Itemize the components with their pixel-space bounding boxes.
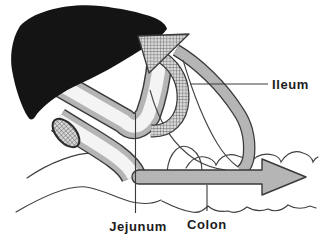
digestive-tract-figure: Ileum Jejunum Colon	[0, 0, 321, 243]
colon-arrow	[132, 159, 306, 195]
colon-label: Colon	[187, 217, 227, 232]
wave-line	[16, 187, 161, 212]
ileum-label: Ileum	[272, 77, 309, 92]
jejunum-label: Jejunum	[109, 219, 167, 234]
ileum-coil-arc	[167, 146, 202, 172]
wave-line	[162, 201, 316, 212]
anatomy-diagram: Ileum Jejunum Colon	[0, 0, 321, 243]
